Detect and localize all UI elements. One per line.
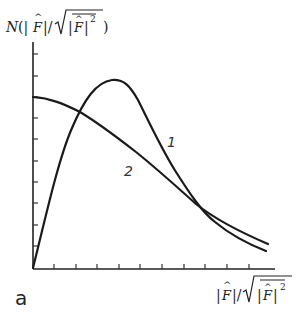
svg-text:F: F bbox=[221, 288, 232, 303]
svg-text:^: ^ bbox=[264, 282, 272, 292]
svg-text:|/: |/ bbox=[232, 287, 242, 304]
svg-text:|/: |/ bbox=[43, 19, 53, 36]
chart-figure: N (| F ^ |/ | F ^ | 2 ) | F ^ |/ | F ^ |… bbox=[0, 0, 301, 315]
series-2-label: 2 bbox=[124, 163, 133, 179]
svg-text:2: 2 bbox=[280, 282, 286, 292]
y-axis-label: N (| F ^ |/ | F ^ | 2 ) bbox=[5, 10, 108, 36]
svg-text:|: | bbox=[84, 19, 89, 36]
x-axis-label: | F ^ |/ | F ^ | 2 bbox=[216, 276, 292, 304]
svg-text:F: F bbox=[32, 20, 43, 35]
svg-text:|: | bbox=[68, 19, 73, 36]
svg-text:|: | bbox=[216, 287, 221, 304]
svg-text:2: 2 bbox=[90, 14, 96, 24]
series-1-curve bbox=[33, 80, 266, 268]
svg-text:^: ^ bbox=[34, 11, 42, 22]
svg-text:|: | bbox=[273, 287, 278, 304]
svg-text:(|: (| bbox=[18, 19, 28, 36]
series-1-label: 1 bbox=[167, 134, 176, 150]
axes bbox=[33, 42, 275, 269]
series-2-curve bbox=[33, 97, 268, 244]
panel-label: a bbox=[15, 286, 27, 310]
svg-text:N: N bbox=[5, 19, 19, 35]
svg-text:|: | bbox=[257, 287, 262, 304]
svg-text:^: ^ bbox=[223, 279, 231, 290]
svg-text:^: ^ bbox=[75, 14, 83, 24]
svg-text:): ) bbox=[103, 19, 108, 35]
